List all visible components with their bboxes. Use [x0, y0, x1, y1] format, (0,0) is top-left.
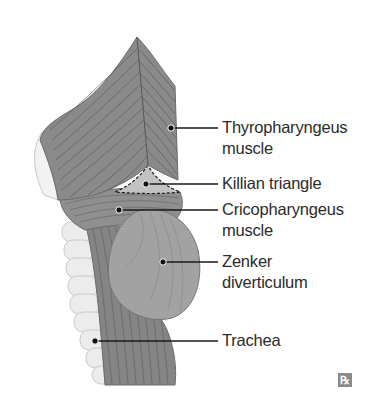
- label-zenker-line2: diverticulum: [222, 272, 308, 293]
- anatomy-diagram: Thyropharyngeus muscle Killian triangle …: [0, 0, 378, 416]
- thyropharyngeus-shape: [40, 37, 178, 200]
- label-cricopharyngeus: Cricopharyngeus muscle: [222, 199, 344, 241]
- label-cricopharyngeus-line1: Cricopharyngeus: [222, 199, 344, 220]
- label-thyropharyngeus-line2: muscle: [222, 138, 347, 159]
- rx-logo-icon: ℞: [338, 373, 352, 387]
- label-cricopharyngeus-line2: muscle: [222, 220, 344, 241]
- label-zenker-diverticulum: Zenker diverticulum: [222, 251, 308, 293]
- label-zenker-line1: Zenker: [222, 251, 308, 272]
- label-thyropharyngeus: Thyropharyngeus muscle: [222, 117, 347, 159]
- label-killian-line1: Killian triangle: [222, 173, 322, 194]
- label-killian-triangle: Killian triangle: [222, 173, 322, 194]
- zenker-pouch-shape: [108, 209, 199, 319]
- label-trachea-line1: Trachea: [222, 330, 281, 351]
- label-trachea: Trachea: [222, 330, 281, 351]
- label-thyropharyngeus-line1: Thyropharyngeus: [222, 117, 347, 138]
